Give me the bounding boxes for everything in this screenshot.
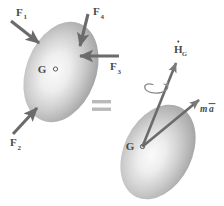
- vector-label-ma-accel: a: [209, 104, 214, 114]
- rotation-spiral-icon: [145, 82, 168, 93]
- right-body-group: G H G m a: [106, 41, 216, 206]
- left-rigid-body: [10, 11, 113, 133]
- left-body-group: G F 1 F 4 F 3 F 2: [10, 5, 122, 152]
- force-label-F4-base: F: [93, 5, 100, 17]
- force-label-F1-base: F: [16, 6, 23, 18]
- force-label-F4-subscript: 4: [101, 13, 105, 21]
- kinetics-equivalence-figure: G F 1 F 4 F 3 F 2 =: [0, 0, 224, 206]
- force-arrow-F2: [13, 108, 37, 134]
- left-center-label: G: [38, 63, 47, 75]
- force-label-F2-subscript: 2: [18, 144, 22, 152]
- force-label-F3: F 3: [110, 60, 122, 76]
- vector-label-Hdot-G-subscript: G: [182, 50, 187, 58]
- force-label-F3-base: F: [110, 60, 117, 72]
- force-label-F2: F 2: [10, 136, 22, 152]
- vector-label-ma-mass: m: [200, 104, 207, 114]
- vector-label-ma: m a: [200, 104, 215, 114]
- diagram-root: G F 1 F 4 F 3 F 2 =: [0, 0, 224, 206]
- force-label-F4: F 4: [93, 5, 105, 21]
- right-center-label: G: [126, 140, 135, 152]
- force-label-F2-base: F: [10, 136, 17, 148]
- vector-label-Hdot-G: H G: [174, 41, 187, 58]
- force-label-F1-subscript: 1: [24, 13, 28, 21]
- force-arrow-F1: [11, 21, 39, 43]
- force-label-F3-subscript: 3: [118, 68, 122, 76]
- force-label-F1: F 1: [16, 6, 28, 21]
- dot-accent-icon: [177, 41, 179, 43]
